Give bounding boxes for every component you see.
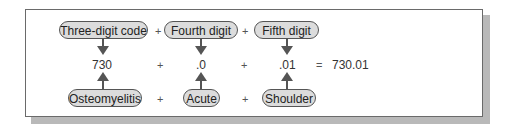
plus-sign: + [155, 24, 161, 38]
arrows-layer [0, 0, 507, 129]
label-fifth-digit: Fifth digit [254, 21, 319, 39]
label-shoulder: Shoulder [262, 89, 316, 107]
label-acute: Acute [183, 89, 220, 107]
label-osteomyelitis: Osteomyelitis [68, 89, 142, 107]
result-code: 730.01 [332, 58, 369, 72]
plus-sign: + [157, 58, 163, 72]
plus-sign: + [242, 92, 248, 106]
code-fourth-digit: .0 [196, 58, 206, 72]
plus-sign: + [242, 24, 248, 38]
label-fourth-digit: Fourth digit [164, 21, 238, 39]
plus-sign: + [241, 58, 247, 72]
code-three-digit: 730 [92, 58, 112, 72]
code-fifth-digit: .01 [279, 58, 296, 72]
plus-sign: + [157, 92, 163, 106]
equals-sign: = [316, 58, 322, 72]
label-three-digit-code: Three-digit code [59, 21, 148, 39]
